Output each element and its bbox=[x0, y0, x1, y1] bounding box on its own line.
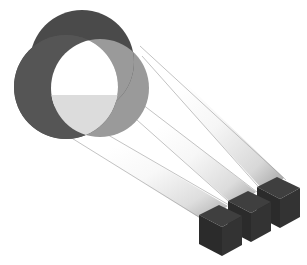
diagram-stage: Three overlapping source circles project… bbox=[0, 0, 307, 265]
projection-diagram bbox=[0, 0, 307, 265]
